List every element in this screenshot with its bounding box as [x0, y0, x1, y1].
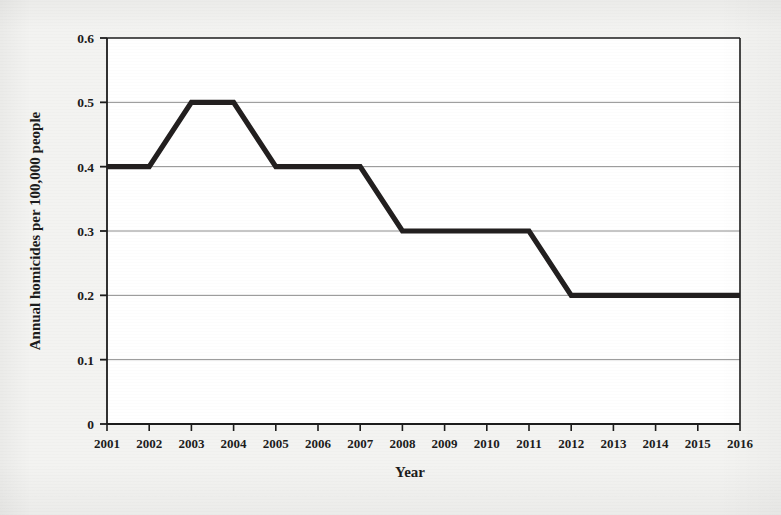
x-tick-label-2008: 2008	[389, 436, 416, 451]
y-axis-title: Annual homicides per 100,000 people	[27, 111, 43, 350]
y-tick-label-0.6: 0.6	[77, 31, 94, 46]
y-tick-label-0.2: 0.2	[77, 288, 94, 303]
chart-canvas: 00.10.20.30.40.50.6 20012002200320042005…	[0, 0, 781, 515]
x-axis-tick-labels-group: 2001200220032004200520062007200820092010…	[94, 436, 754, 451]
x-tick-label-2004: 2004	[221, 436, 248, 451]
x-axis-title: Year	[395, 464, 425, 480]
y-tick-label-0.5: 0.5	[77, 95, 94, 110]
x-tick-label-2005: 2005	[263, 436, 290, 451]
y-tick-label-0.4: 0.4	[77, 160, 94, 175]
y-axis-tick-labels-group: 00.10.20.30.40.50.6	[77, 31, 94, 432]
x-tick-label-2010: 2010	[474, 436, 500, 451]
x-tick-label-2013: 2013	[600, 436, 627, 451]
x-tick-label-2011: 2011	[516, 436, 541, 451]
y-tick-label-0.1: 0.1	[77, 353, 94, 368]
x-tick-label-2006: 2006	[305, 436, 332, 451]
x-tick-label-2002: 2002	[136, 436, 162, 451]
y-axis-ticks-group	[100, 38, 107, 424]
line-chart-figure: 00.10.20.30.40.50.6 20012002200320042005…	[0, 0, 781, 515]
x-tick-label-2003: 2003	[178, 436, 205, 451]
x-axis-ticks-group	[107, 424, 740, 431]
x-tick-label-2007: 2007	[347, 436, 374, 451]
x-tick-label-2001: 2001	[94, 436, 120, 451]
x-tick-label-2009: 2009	[432, 436, 459, 451]
x-tick-label-2014: 2014	[643, 436, 670, 451]
x-tick-label-2016: 2016	[727, 436, 754, 451]
x-tick-label-2015: 2015	[685, 436, 712, 451]
y-tick-label-0.3: 0.3	[77, 224, 94, 239]
x-tick-label-2012: 2012	[558, 436, 584, 451]
y-tick-label-0: 0	[87, 417, 94, 432]
